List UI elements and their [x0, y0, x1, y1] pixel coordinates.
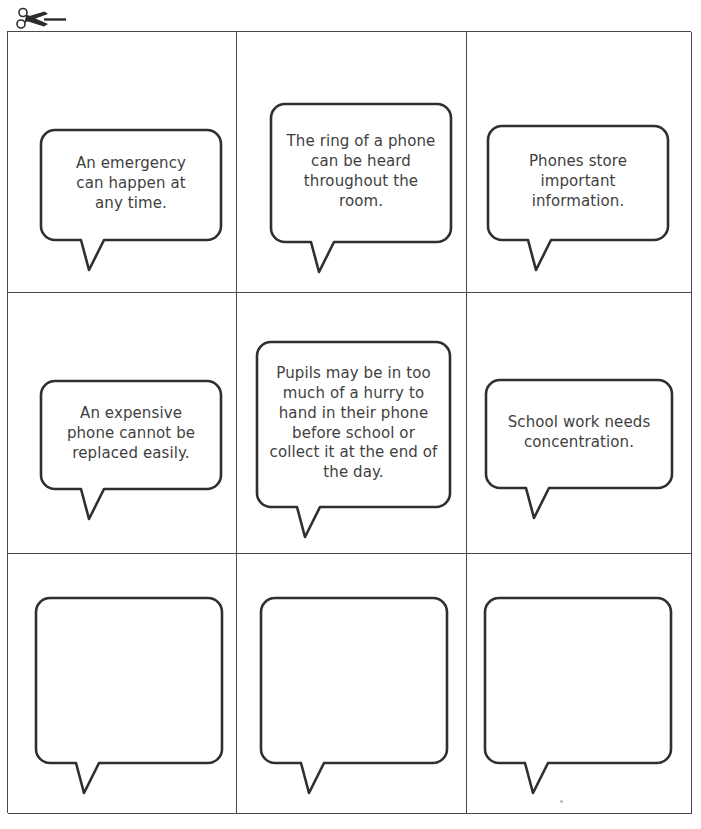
- speech-bubble: Phones store important information.: [467, 32, 691, 292]
- speech-bubble: [467, 554, 691, 813]
- card-cell[interactable]: The ring of a phone can be heard through…: [237, 32, 467, 293]
- card-text: Pupils may be in too much of a hurry to …: [257, 341, 450, 506]
- scan-artifact-speck: [560, 800, 563, 803]
- card-text: An emergency can happen at any time.: [41, 129, 221, 239]
- worksheet-grid: An emergency can happen at any time. The…: [7, 31, 691, 813]
- card-text: School work needs concentration.: [486, 379, 672, 487]
- card-text: Phones store important information.: [488, 125, 668, 239]
- speech-bubble: [237, 554, 466, 813]
- card-cell[interactable]: An expensive phone cannot be replaced ea…: [8, 293, 237, 554]
- card-cell[interactable]: Phones store important information.: [467, 32, 692, 293]
- card-cell[interactable]: [8, 554, 237, 814]
- card-cell[interactable]: [237, 554, 467, 814]
- card-text: An expensive phone cannot be replaced ea…: [41, 380, 221, 488]
- card-cell[interactable]: An emergency can happen at any time.: [8, 32, 237, 293]
- card-cell[interactable]: School work needs concentration.: [467, 293, 692, 554]
- speech-bubble: School work needs concentration.: [467, 293, 691, 553]
- card-cell[interactable]: Pupils may be in too much of a hurry to …: [237, 293, 467, 554]
- speech-bubble: [8, 554, 236, 813]
- card-text: The ring of a phone can be heard through…: [271, 103, 451, 241]
- speech-bubble: The ring of a phone can be heard through…: [237, 32, 466, 292]
- speech-bubble: Pupils may be in too much of a hurry to …: [237, 293, 466, 553]
- card-cell[interactable]: [467, 554, 692, 814]
- speech-bubble: An expensive phone cannot be replaced ea…: [8, 293, 236, 553]
- scissors-icon: [14, 6, 70, 32]
- card-text[interactable]: [261, 597, 447, 762]
- card-text[interactable]: [36, 597, 222, 762]
- speech-bubble: An emergency can happen at any time.: [8, 32, 236, 292]
- card-text[interactable]: [485, 597, 671, 762]
